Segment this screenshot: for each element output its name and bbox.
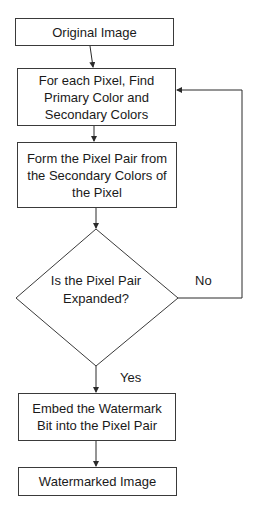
node-form-pixel-pair: Form the Pixel Pair from the Secondary C… [17,142,177,208]
edge-label-yes: Yes [120,370,141,385]
node-embed-watermark: Embed the Watermark Bit into the Pixel P… [18,393,176,441]
arrow-original-to-find [90,46,93,67]
node-label: Watermarked Image [39,473,156,490]
node-label: Form the Pixel Pair from the Secondary C… [22,150,172,201]
node-label: Embed the Watermark Bit into the Pixel P… [23,400,171,434]
node-find-colors: For each Pixel, Find Primary Color and S… [17,68,176,126]
arrow-no-loop [177,90,242,298]
node-label: Original Image [52,24,137,41]
edge-label-no: No [195,273,212,288]
node-label: For each Pixel, Find Primary Color and S… [22,72,171,123]
node-watermarked-image: Watermarked Image [18,467,177,496]
node-original-image: Original Image [15,18,174,46]
decision-label: Is the Pixel Pair Expanded? [46,272,146,308]
